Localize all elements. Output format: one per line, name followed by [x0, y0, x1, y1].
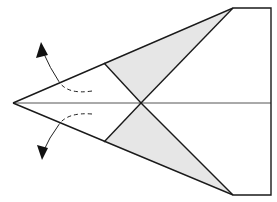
upper-unfold-arrow-icon: [36, 42, 92, 92]
folding-diagram: [0, 0, 277, 202]
lower-unfold-arrow-icon: [37, 114, 92, 160]
